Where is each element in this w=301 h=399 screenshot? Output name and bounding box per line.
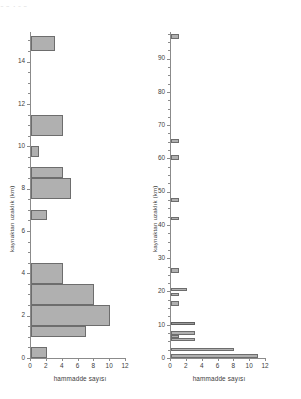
y-axis-tick-label: 10	[8, 143, 25, 149]
y-axis-tick	[167, 158, 171, 159]
y-axis-minor-tick	[168, 84, 170, 85]
y-axis-minor-tick	[168, 300, 170, 301]
y-axis-tick-label: 50	[148, 188, 165, 194]
y-axis-minor-tick	[168, 341, 170, 342]
y-axis-minor-tick	[28, 83, 30, 84]
y-axis-minor-tick	[28, 136, 30, 137]
y-axis-tick	[167, 291, 171, 292]
y-axis-minor-tick	[168, 175, 170, 176]
figure-root: 0 2 4 6 8 kaynaktan uzaklık (km) hammadd…	[0, 0, 301, 399]
chart-right-x-axis-label: hammadde sayısı	[161, 375, 277, 382]
y-axis-minor-tick	[28, 326, 30, 327]
y-axis-minor-tick	[168, 308, 170, 309]
y-axis-tick-label: 14	[8, 58, 25, 64]
y-axis-minor-tick	[28, 167, 30, 168]
y-axis-tick	[27, 189, 31, 190]
y-axis-minor-tick	[28, 199, 30, 200]
x-axis-tick	[109, 358, 110, 361]
y-axis-minor-tick	[168, 283, 170, 284]
y-axis-tick	[167, 258, 171, 259]
x-axis-tick	[233, 358, 234, 361]
top-remnant-text: 0 2 4 6 8	[0, 5, 27, 7]
histogram-bar	[171, 348, 234, 351]
histogram-bar	[31, 36, 55, 51]
x-axis-tick	[202, 358, 203, 361]
y-axis-minor-tick	[168, 50, 170, 51]
chart-left: kaynaktan uzaklık (km) hammadde sayısı 0…	[0, 14, 145, 399]
x-axis-tick	[125, 358, 126, 361]
y-axis-minor-tick	[28, 210, 30, 211]
chart-left-plot-area: 02468101214024681012	[0, 14, 145, 374]
y-axis-tick	[167, 125, 171, 126]
y-axis-minor-tick	[168, 42, 170, 43]
y-axis-tick-label: 2	[8, 312, 25, 318]
y-axis-minor-tick	[28, 294, 30, 295]
y-axis-tick	[27, 146, 31, 147]
x-axis-tick	[62, 358, 63, 361]
histogram-bar	[171, 331, 195, 334]
y-axis-minor-tick	[28, 72, 30, 73]
y-axis-minor-tick	[28, 115, 30, 116]
x-axis-tick	[170, 358, 171, 361]
y-axis-minor-tick	[168, 117, 170, 118]
y-axis-minor-tick	[168, 350, 170, 351]
y-axis-minor-tick	[28, 284, 30, 285]
x-axis-tick-label: 12	[256, 363, 274, 369]
histogram-bar	[171, 198, 179, 202]
chart-right-plot-area: 0102030405060708090024681012	[143, 14, 301, 374]
y-axis-line	[170, 32, 171, 358]
histogram-bar	[31, 146, 39, 157]
histogram-bar	[31, 305, 110, 326]
y-axis-minor-tick	[168, 183, 170, 184]
histogram-bar	[31, 284, 94, 305]
chart-left-x-axis-label: hammadde sayısı	[22, 375, 138, 382]
y-axis-tick-label: 40	[148, 222, 165, 228]
y-axis-minor-tick	[28, 157, 30, 158]
y-axis-minor-tick	[28, 252, 30, 253]
x-axis-tick	[93, 358, 94, 361]
histogram-bar	[171, 34, 179, 38]
x-axis-tick	[78, 358, 79, 361]
y-axis-minor-tick	[168, 75, 170, 76]
histogram-bar	[31, 178, 71, 199]
x-axis-tick	[265, 358, 266, 361]
histogram-bar	[171, 335, 179, 338]
y-axis-minor-tick	[168, 34, 170, 35]
y-axis-minor-tick	[28, 93, 30, 94]
y-axis-minor-tick	[28, 305, 30, 306]
y-axis-tick-label: 60	[148, 155, 165, 161]
y-axis-minor-tick	[168, 133, 170, 134]
y-axis-minor-tick	[168, 267, 170, 268]
y-axis-minor-tick	[28, 40, 30, 41]
x-axis-tick	[249, 358, 250, 361]
y-axis-minor-tick	[28, 220, 30, 221]
y-axis-tick-label: 10	[148, 322, 165, 328]
y-axis-minor-tick	[28, 178, 30, 179]
y-axis-minor-tick	[168, 275, 170, 276]
y-axis-minor-tick	[168, 67, 170, 68]
chart-right: kaynaktan uzaklık (km) hammadde sayısı 0…	[143, 14, 301, 399]
y-axis-minor-tick	[28, 263, 30, 264]
y-axis-minor-tick	[168, 217, 170, 218]
top-cropped-text-remnant: 0 2 4 6 8	[0, 0, 301, 7]
histogram-bar	[171, 301, 179, 306]
y-axis-tick-label: 90	[148, 55, 165, 61]
y-axis-tick	[27, 231, 31, 232]
histogram-bar	[31, 347, 47, 358]
y-axis-minor-tick	[168, 242, 170, 243]
y-axis-tick-label: 20	[148, 288, 165, 294]
y-axis-minor-tick	[28, 125, 30, 126]
y-axis-minor-tick	[168, 200, 170, 201]
histogram-bar	[171, 139, 179, 143]
y-axis-minor-tick	[168, 100, 170, 101]
histogram-bar	[31, 210, 47, 221]
y-axis-minor-tick	[168, 208, 170, 209]
y-axis-tick	[27, 62, 31, 63]
y-axis-tick-label: 70	[148, 122, 165, 128]
y-axis-minor-tick	[28, 347, 30, 348]
y-axis-tick	[27, 104, 31, 105]
x-axis-tick	[186, 358, 187, 361]
y-axis-tick	[167, 225, 171, 226]
histogram-bar	[31, 167, 63, 178]
histogram-bar	[31, 326, 86, 337]
